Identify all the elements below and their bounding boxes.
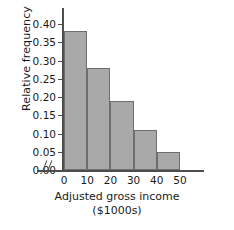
y-tick-mark: [58, 24, 63, 25]
histogram-chart: Relative frequency 0.000.050.100.150.200…: [0, 0, 234, 230]
y-tick-mark: [58, 61, 63, 62]
y-tick-label: 0.15: [33, 109, 56, 121]
y-tick-label: 0.30: [33, 55, 56, 67]
x-tick-label: 50: [173, 174, 186, 186]
x-tick-label: 30: [127, 174, 140, 186]
y-tick-mark: [58, 152, 63, 153]
x-tick-label: 20: [104, 174, 117, 186]
x-axis-tick-labels: 01020304050: [64, 174, 180, 190]
histogram-bar: [87, 68, 110, 170]
plot-area: 01020304050: [64, 24, 180, 170]
x-axis-title: Adjusted gross income ($1000s): [0, 190, 234, 218]
x-tick-label: 40: [150, 174, 163, 186]
histogram-bar: [134, 130, 157, 170]
histogram-bar: [110, 101, 133, 170]
y-tick-mark: [58, 79, 63, 80]
x-axis-title-line1: Adjusted gross income: [55, 190, 180, 203]
y-tick-label: 0.35: [33, 36, 56, 48]
histogram-bar: [64, 31, 87, 170]
x-axis-title-line2: ($1000s): [0, 204, 234, 218]
y-axis-tick-labels: 0.000.050.100.150.200.250.300.350.40: [26, 24, 56, 170]
y-tick-label: 0.05: [33, 146, 56, 158]
x-tick-label: 0: [61, 174, 68, 186]
y-tick-label: 0.20: [33, 91, 56, 103]
histogram-bar: [157, 152, 180, 170]
y-tick-label: 0.25: [33, 73, 56, 85]
y-tick-mark: [58, 115, 63, 116]
bar-series: [64, 24, 180, 170]
x-tick-label: 10: [81, 174, 94, 186]
x-axis-break-icon: [42, 160, 58, 176]
y-tick-mark: [58, 42, 63, 43]
y-tick-label: 0.10: [33, 128, 56, 140]
y-tick-mark: [58, 134, 63, 135]
y-tick-mark: [58, 97, 63, 98]
y-tick-label: 0.40: [33, 18, 56, 30]
y-tick-mark: [58, 170, 63, 171]
